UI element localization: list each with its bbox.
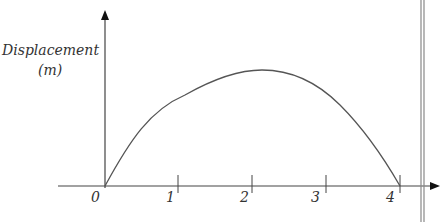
displacement-curve xyxy=(105,70,400,186)
y-axis-unit: (m) xyxy=(38,62,62,78)
y-axis-arrow-icon xyxy=(101,10,109,20)
tick-label-3: 3 xyxy=(311,189,320,205)
x-axis-arrow-icon xyxy=(430,182,440,190)
tick-label-0: 0 xyxy=(91,189,100,205)
tick-label-2: 2 xyxy=(240,189,249,205)
displacement-chart xyxy=(0,0,440,222)
tick-label-4: 4 xyxy=(386,189,395,205)
tick-label-1: 1 xyxy=(166,189,175,205)
y-axis-label: Displacement xyxy=(2,42,99,58)
